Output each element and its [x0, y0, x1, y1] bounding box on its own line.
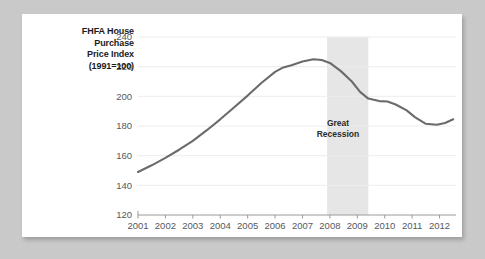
svg-text:160: 160 — [116, 150, 132, 161]
data-series-line — [138, 59, 453, 172]
svg-text:2008: 2008 — [319, 220, 340, 231]
svg-text:2002: 2002 — [155, 220, 176, 231]
svg-text:2009: 2009 — [347, 220, 368, 231]
svg-text:180: 180 — [116, 120, 132, 131]
chart-figure: FHFA House Purchase Price Index (1991=10… — [22, 14, 462, 237]
recession-label-line-1: Great — [308, 118, 368, 129]
svg-text:2012: 2012 — [429, 220, 450, 231]
svg-text:120: 120 — [116, 209, 132, 220]
svg-text:2011: 2011 — [402, 220, 422, 231]
page-background: FHFA House Purchase Price Index (1991=10… — [0, 0, 485, 259]
svg-text:2007: 2007 — [292, 220, 313, 231]
y-axis-title-line-3: Price Index — [30, 49, 134, 61]
y-axis-title: FHFA House Purchase Price Index (1991=10… — [30, 26, 134, 72]
y-axis-title-line-4: (1991=100) — [30, 61, 134, 73]
svg-text:2006: 2006 — [264, 220, 285, 231]
svg-text:2005: 2005 — [237, 220, 258, 231]
svg-text:2001: 2001 — [127, 220, 148, 231]
svg-text:2010: 2010 — [374, 220, 395, 231]
svg-text:2004: 2004 — [210, 220, 231, 231]
recession-annotation-label: Great Recession — [308, 118, 368, 139]
svg-text:200: 200 — [116, 91, 132, 102]
y-axis-title-line-2: Purchase — [30, 38, 134, 50]
x-axis-line — [138, 211, 456, 219]
y-axis-title-line-1: FHFA House — [30, 26, 134, 38]
chart-card: FHFA House Purchase Price Index (1991=10… — [22, 14, 462, 237]
recession-label-line-2: Recession — [308, 129, 368, 140]
svg-text:140: 140 — [116, 180, 132, 191]
svg-text:2003: 2003 — [182, 220, 203, 231]
x-axis-tick-labels: 2001200220032004200520062007200820092010… — [127, 220, 450, 231]
